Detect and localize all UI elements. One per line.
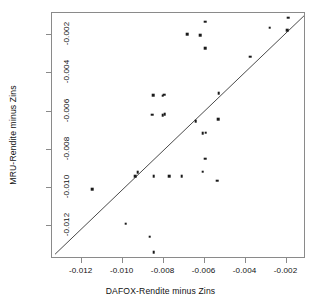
data-point <box>204 47 207 50</box>
data-point <box>152 175 155 178</box>
data-point <box>124 222 127 225</box>
data-point <box>153 251 156 254</box>
data-point <box>204 20 207 23</box>
y-tick-label: -0.012 <box>62 213 71 237</box>
data-point <box>148 235 151 238</box>
x-tick-mark <box>122 258 123 263</box>
data-point <box>168 175 171 178</box>
x-tick-mark <box>163 258 164 263</box>
data-point <box>161 114 164 117</box>
x-tick-label: -0.008 <box>151 266 175 275</box>
data-point <box>216 180 219 183</box>
data-point <box>151 114 154 117</box>
y-tick-mark <box>46 149 51 150</box>
data-point <box>199 34 202 37</box>
y-tick-label: -0.010 <box>62 175 71 199</box>
data-point <box>91 188 94 191</box>
data-point <box>134 175 137 178</box>
data-points-layer <box>52 13 304 257</box>
x-tick-label: -0.012 <box>69 266 93 275</box>
y-tick-mark <box>46 72 51 73</box>
y-axis-title-wrap: MRU-Rendite minus Zins <box>6 0 20 270</box>
x-tick-mark <box>81 258 82 263</box>
y-tick-label: -0.008 <box>62 137 71 161</box>
x-tick-label: -0.006 <box>192 266 216 275</box>
x-tick-label: -0.002 <box>274 266 298 275</box>
data-point <box>217 92 220 95</box>
plot-frame <box>51 12 305 258</box>
y-tick-label: -0.006 <box>62 98 71 122</box>
x-tick-mark <box>245 258 246 263</box>
scatter-plot-figure: -0.012-0.010-0.008-0.006-0.004-0.002 -0.… <box>0 0 321 308</box>
y-tick-mark <box>46 187 51 188</box>
data-point <box>287 16 290 19</box>
data-point <box>152 94 155 97</box>
data-point <box>161 94 164 97</box>
y-tick-mark <box>46 225 51 226</box>
y-tick-label: -0.004 <box>62 60 71 84</box>
data-point <box>249 55 252 58</box>
x-tick-label: -0.004 <box>233 266 257 275</box>
data-point <box>217 118 220 121</box>
y-tick-label: -0.002 <box>62 22 71 46</box>
x-axis-title: DAFOX-Rendite minus Zins <box>0 286 321 296</box>
y-tick-mark <box>46 34 51 35</box>
y-axis-title: MRU-Rendite minus Zins <box>8 85 18 184</box>
y-tick-mark <box>46 111 51 112</box>
x-tick-mark <box>204 258 205 263</box>
data-point <box>186 33 189 36</box>
data-point <box>201 170 204 173</box>
data-point <box>204 131 207 134</box>
data-point <box>180 175 183 178</box>
data-point <box>137 171 140 174</box>
data-point <box>286 29 289 32</box>
data-point <box>268 26 271 29</box>
data-point <box>204 157 207 160</box>
x-tick-label: -0.010 <box>110 266 134 275</box>
data-point <box>195 120 198 123</box>
x-tick-mark <box>286 258 287 263</box>
